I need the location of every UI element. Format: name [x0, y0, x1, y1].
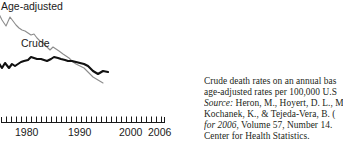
x-axis-label-1990: 1990	[68, 127, 91, 138]
series-label-age-adjusted: Age-adjusted	[1, 1, 63, 12]
caption-line: Crude death rates on an annual bas	[204, 76, 343, 87]
caption-line: Source: Heron, M., Hoyert, D. L., M	[204, 98, 343, 109]
caption-line: for 2006, Volume 57, Number 14.	[204, 120, 343, 131]
series-label-crude: Crude	[21, 38, 50, 49]
caption-line: Center for Health Statistics.	[204, 131, 343, 142]
line-chart-plot	[0, 0, 180, 146]
caption-text: , Volume 57, Number 14.	[236, 120, 332, 130]
x-axis-label-2006: 2006	[148, 127, 171, 138]
series-line-age-adjusted	[0, 12, 103, 83]
caption-text-italic: Source:	[204, 98, 233, 108]
series-line-crude	[0, 57, 108, 74]
caption-line: Kochanek, K., & Tejeda-Vera, B. (	[204, 109, 343, 120]
caption-text: Kochanek, K., & Tejeda-Vera, B. (	[204, 109, 336, 119]
caption-text: Crude death rates on an annual bas	[204, 76, 336, 86]
x-axis-tick-marks	[7, 117, 162, 123]
figure-caption: Crude death rates on an annual basage-ad…	[204, 76, 343, 146]
x-axis-label-1980: 1980	[15, 127, 38, 138]
caption-text: age-adjusted rates per 100,000 U.S	[204, 87, 337, 97]
x-axis-label-2000: 2000	[119, 127, 142, 138]
caption-text: Heron, M., Hoyert, D. L., M	[233, 98, 343, 108]
caption-text-italic: for 2006	[204, 120, 236, 130]
caption-line: age-adjusted rates per 100,000 U.S	[204, 87, 343, 98]
chart-panel: Age-adjusted Crude 1980 1990 2000 2006	[0, 0, 180, 146]
caption-text: Center for Health Statistics.	[204, 131, 310, 141]
